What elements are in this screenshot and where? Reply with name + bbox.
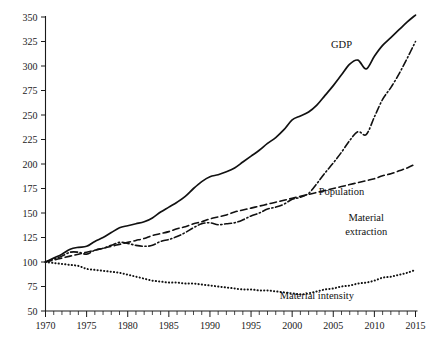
x-axis-tick-label: 1985 [159,320,179,331]
y-axis-tick-label: 275 [23,85,38,96]
y-axis-tick-label: 300 [23,61,38,72]
y-axis-tick-label: 325 [23,36,38,47]
y-axis-tick-label: 75 [28,281,38,292]
chart-container: 5075100125150175200225250275300325350197… [0,0,434,347]
y-axis-tick-label: 175 [23,183,38,194]
series-label-gdp: GDP [331,39,352,50]
x-axis-tick-label: 2005 [323,320,343,331]
series-line-material-intensity [46,262,416,294]
y-axis-tick-label: 150 [23,208,38,219]
y-axis-tick-label: 100 [23,257,38,268]
x-axis-tick-label: 1970 [36,320,56,331]
x-axis-tick-label: 2015 [406,320,426,331]
x-axis-tick-label: 1990 [200,320,220,331]
series-label-material: Material [348,212,384,223]
line-chart: 5075100125150175200225250275300325350197… [0,0,434,347]
x-axis-tick-label: 1980 [118,320,138,331]
y-axis-tick-label: 250 [23,110,38,121]
y-axis-tick-label: 225 [23,134,38,145]
y-axis-tick-label: 125 [23,232,38,243]
series-label-population: Population [319,186,365,197]
x-axis-tick-label: 2000 [282,320,302,331]
x-axis-tick-label: 1995 [241,320,261,331]
y-axis-tick-label: 200 [23,159,38,170]
x-axis-tick-label: 2010 [364,320,384,331]
y-axis-tick-label: 50 [28,306,38,317]
series-label-extraction: extraction [345,226,388,237]
y-axis-tick-label: 350 [23,12,38,23]
series-label-material-intensity: Material intensity [280,290,355,301]
x-axis-tick-label: 1975 [77,320,97,331]
